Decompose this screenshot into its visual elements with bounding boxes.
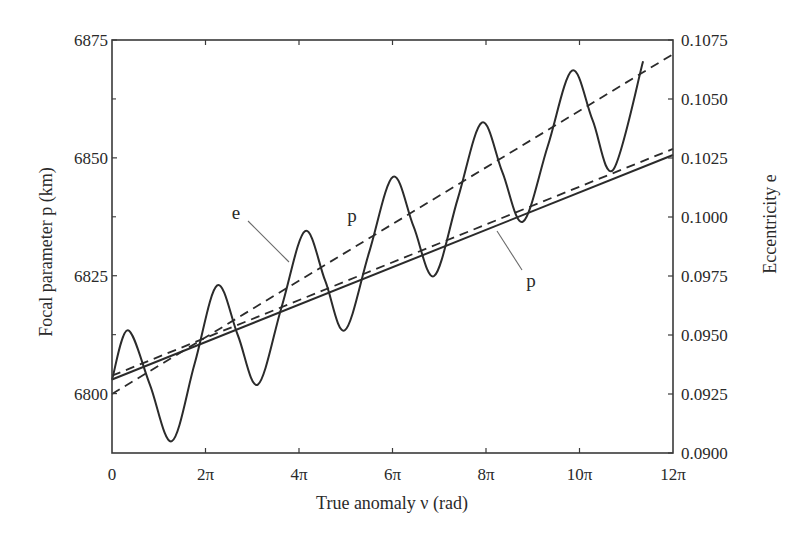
annotation-leader-line [248,221,289,262]
x-tick-label: 12π [660,465,686,484]
y-axis-left: 6800682568506875 [74,31,117,404]
x-tick-label: 10π [567,465,593,484]
y-right-tick-label: 0.1075 [681,31,728,50]
y-right-tick-label: 0.0925 [681,385,728,404]
y-left-tick-label: 6825 [74,267,108,286]
x-axis-title: True anomaly ν (rad) [316,493,468,514]
x-tick-label: 2π [197,465,215,484]
y-right-tick-label: 0.1050 [681,90,728,109]
y-right-tick-label: 0.0950 [681,326,728,345]
y-right-tick-label: 0.1025 [681,149,728,168]
series-line-3 [112,149,673,376]
plot-frame [112,40,673,453]
series-line-1 [112,54,673,394]
x-tick-label: 8π [477,465,495,484]
x-axis: 02π4π6π8π10π12π [108,40,686,484]
y-left-tick-label: 6850 [74,149,108,168]
series-line-0 [112,61,643,441]
y-axis-left-title: Focal parameter p (km) [36,167,57,336]
annotation-label: p [347,205,357,226]
y-left-tick-label: 6875 [74,31,108,50]
annotation-label: e [232,202,240,223]
series-line-2 [112,155,673,379]
plot-lines [112,54,673,441]
y-right-tick-label: 0.0975 [681,267,728,286]
annotation-label: p [526,270,536,291]
y-right-tick-label: 0.1000 [681,208,728,227]
x-tick-label: 4π [290,465,308,484]
y-axis-right: 0.09000.09250.09500.09750.10000.10250.10… [668,31,728,463]
y-axis-right-title: Eccentricity e [760,174,780,273]
annotation-leader-line [497,231,522,270]
x-tick-label: 0 [108,465,117,484]
y-left-tick-label: 6800 [74,385,108,404]
annotations: epp [232,202,536,291]
x-tick-label: 6π [384,465,402,484]
chart: epp 02π4π6π8π10π12π 6800682568506875 0.0… [0,0,809,545]
y-right-tick-label: 0.0900 [681,444,728,463]
